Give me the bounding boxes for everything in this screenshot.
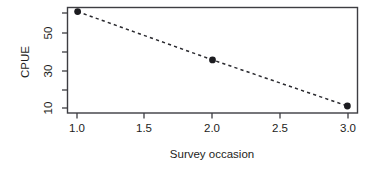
x-tick-label-3-0: 3.0 bbox=[340, 122, 356, 134]
cpue-survey-occasion-chart: 50 30 10 CPUE 1.0 1.5 2.0 2.5 3.0 Survey… bbox=[0, 0, 376, 170]
x-tick-label-1-0: 1.0 bbox=[69, 122, 85, 134]
y-tick-label-10: 10 bbox=[42, 102, 54, 115]
y-tick-label-50: 50 bbox=[42, 27, 54, 40]
y-axis-title: CPUE bbox=[19, 46, 31, 78]
x-tick-label-2-0: 2.0 bbox=[204, 122, 220, 134]
chart-canvas: 50 30 10 CPUE 1.0 1.5 2.0 2.5 3.0 Survey… bbox=[0, 0, 376, 170]
data-point-3 bbox=[344, 103, 351, 110]
x-tick-label-1-5: 1.5 bbox=[136, 122, 152, 134]
chart-background bbox=[0, 0, 376, 170]
x-axis-title: Survey occasion bbox=[170, 148, 254, 160]
data-point-1 bbox=[74, 8, 81, 15]
y-tick-label-30: 30 bbox=[42, 65, 54, 78]
data-point-2 bbox=[209, 56, 216, 63]
x-tick-label-2-5: 2.5 bbox=[272, 122, 288, 134]
